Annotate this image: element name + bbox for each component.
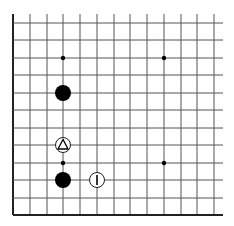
go-board[interactable] xyxy=(0,0,234,226)
star-point xyxy=(162,56,166,60)
black-stone[interactable] xyxy=(55,172,71,188)
black-stone[interactable] xyxy=(55,85,71,101)
star-point xyxy=(61,56,65,60)
star-point xyxy=(162,161,166,165)
star-point xyxy=(61,161,65,165)
